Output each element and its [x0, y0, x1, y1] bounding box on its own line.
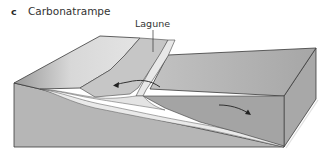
carbonate-ramp-block-diagram — [0, 0, 328, 156]
